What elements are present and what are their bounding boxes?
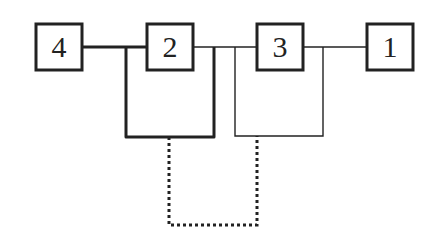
node-2: 2 — [147, 24, 193, 70]
node-3-label: 3 — [273, 30, 288, 63]
node-1: 1 — [367, 24, 413, 70]
node-4-label: 4 — [52, 30, 67, 63]
node-3: 3 — [257, 24, 303, 70]
node-1-label: 1 — [383, 30, 398, 63]
dotted-link — [169, 136, 257, 225]
node-4: 4 — [36, 24, 82, 70]
node-2-label: 2 — [163, 30, 178, 63]
network-diagram: 4 2 3 1 — [0, 0, 440, 240]
